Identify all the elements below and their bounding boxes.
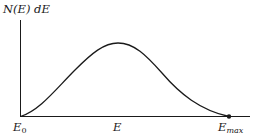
spectrum-diagram <box>0 0 254 138</box>
x-start-label: E0 <box>13 120 27 135</box>
x-end-label: Emax <box>218 120 243 135</box>
emax-endpoint-dot <box>227 114 231 118</box>
x-axis-label: E <box>113 120 121 134</box>
spectrum-curve <box>21 43 230 117</box>
y-axis-label: N(E) dE <box>3 2 50 16</box>
